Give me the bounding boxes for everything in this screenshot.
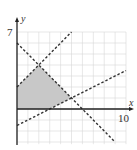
x-tick-10: 10 xyxy=(118,113,129,124)
y-tick-7: 7 xyxy=(7,27,13,38)
y-axis-arrow xyxy=(15,17,19,22)
y-axis-label: y xyxy=(21,14,25,24)
x-axis-label: x xyxy=(129,98,133,108)
